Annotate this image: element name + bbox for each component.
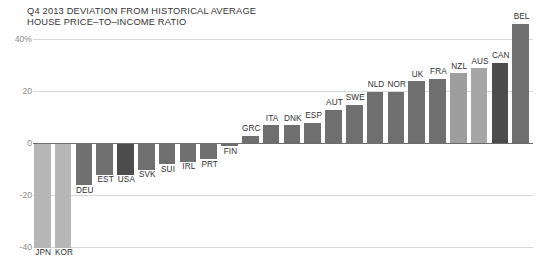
bar-label-jpn: JPN [33, 249, 55, 258]
bars-group: JPNKORDEUESTUSASVKSUIIRLPRTFINGRCITADNKE… [0, 0, 538, 267]
bar-label-fra: FRA [428, 68, 450, 77]
bar-label-kor: KOR [53, 249, 75, 258]
bar-kor[interactable] [55, 144, 72, 248]
bar-label-sui: SUI [157, 166, 179, 175]
bar-jpn[interactable] [34, 144, 51, 248]
bar-est[interactable] [96, 144, 113, 175]
chart-plot-area: 40%200-20-40 JPNKORDEUESTUSASVKSUIIRLPRT… [0, 0, 538, 267]
bar-label-usa: USA [116, 176, 138, 185]
bar-bel[interactable] [512, 24, 529, 144]
bar-label-esp: ESP [303, 112, 325, 121]
bar-grc[interactable] [242, 136, 259, 144]
bar-dnk[interactable] [284, 125, 301, 143]
bar-label-nor: NOR [386, 81, 408, 90]
bar-label-fin: FIN [220, 148, 242, 157]
bar-label-aut: AUT [324, 99, 346, 108]
bar-label-nld: NLD [365, 81, 387, 90]
bar-nld[interactable] [367, 92, 384, 144]
bar-label-svk: SVK [137, 171, 159, 180]
bar-sui[interactable] [159, 144, 176, 165]
bar-label-est: EST [95, 176, 117, 185]
bar-label-can: CAN [490, 52, 512, 61]
bar-label-deu: DEU [74, 187, 96, 196]
bar-fra[interactable] [429, 79, 446, 144]
bar-can[interactable] [492, 63, 509, 144]
bar-label-uk: UK [407, 71, 429, 80]
bar-label-nzl: NZL [449, 63, 471, 72]
bar-deu[interactable] [76, 144, 93, 186]
bar-prt[interactable] [200, 144, 217, 160]
bar-label-swe: SWE [345, 94, 367, 103]
bar-ita[interactable] [263, 125, 280, 143]
bar-label-ita: ITA [261, 115, 283, 124]
bar-swe[interactable] [346, 105, 363, 144]
bar-aut[interactable] [325, 110, 342, 144]
bar-label-grc: GRC [241, 125, 263, 134]
bar-fin[interactable] [221, 144, 238, 147]
bar-label-prt: PRT [199, 161, 221, 170]
bar-nzl[interactable] [450, 73, 467, 143]
bar-aus[interactable] [471, 68, 488, 143]
bar-nor[interactable] [388, 92, 405, 144]
bar-label-aus: AUS [469, 58, 491, 67]
bar-svk[interactable] [138, 144, 155, 170]
bar-label-irl: IRL [178, 163, 200, 172]
bar-irl[interactable] [180, 144, 197, 162]
bar-uk[interactable] [408, 81, 425, 143]
bar-label-dnk: DNK [282, 115, 304, 124]
bar-esp[interactable] [304, 123, 321, 144]
bar-usa[interactable] [117, 144, 134, 175]
bar-label-bel: BEL [511, 13, 533, 22]
